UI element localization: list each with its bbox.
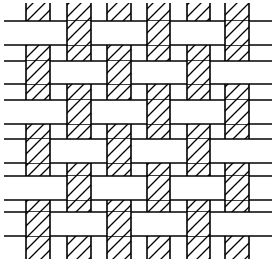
warp-over-crossing [107, 139, 131, 163]
warp-over-crossing [107, 61, 131, 84]
warp-over-crossing [187, 61, 210, 84]
warp-over-crossing [26, 212, 50, 236]
warp-over-crossing [225, 176, 249, 200]
warp-over-crossing [147, 21, 170, 45]
warp-crossings [26, 21, 249, 236]
warp-over-crossing [67, 21, 91, 45]
warp-over-crossing [187, 139, 210, 163]
warp-over-crossing [107, 212, 131, 236]
warp-over-crossing [147, 176, 170, 200]
warp-over-crossing [225, 100, 249, 124]
warp-over-crossing [67, 100, 91, 124]
warp-over-crossing [147, 100, 170, 124]
warp-over-crossing [67, 176, 91, 200]
plain-weave-diagram [0, 0, 276, 267]
warp-over-crossing [26, 139, 50, 163]
warp-over-crossing [26, 61, 50, 84]
warp-over-crossing [225, 21, 249, 45]
warp-over-crossing [187, 212, 210, 236]
